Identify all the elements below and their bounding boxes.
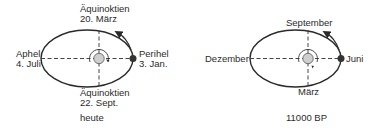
sun-icon [303, 53, 313, 63]
label-line: 3. Jan. [139, 59, 169, 69]
sun-icon [94, 53, 104, 63]
orbit-diagram-today [41, 30, 137, 87]
rotation-arrow-tip-icon [106, 60, 110, 63]
caption-11000bp: 11000 BP [286, 113, 327, 123]
label-december: Dezember [205, 54, 249, 64]
label-march: März [298, 87, 319, 97]
rotation-arrow-tip-icon [312, 66, 315, 69]
label-line: 22. Sept. [80, 98, 130, 108]
caption-today: heute [80, 113, 104, 123]
label-aphelion: Aphel 4. Juli [16, 49, 41, 69]
earth-icon [130, 55, 137, 62]
earth-icon [338, 55, 345, 62]
label-september: September [286, 18, 332, 28]
label-june: Juni [346, 54, 363, 64]
label-line: 4. Juli [16, 59, 41, 69]
label-line: 20. März [80, 14, 130, 24]
orbit-diagram-11000bp [250, 30, 345, 87]
orbit-diagram-figure: Äquinoktien 20. März Aphel 4. Juli Perih… [0, 0, 378, 131]
label-equinox-march: Äquinoktien 20. März [80, 4, 130, 24]
label-equinox-september: Äquinoktien 22. Sept. [80, 88, 130, 108]
label-perihelion: Perihel 3. Jan. [139, 49, 169, 69]
